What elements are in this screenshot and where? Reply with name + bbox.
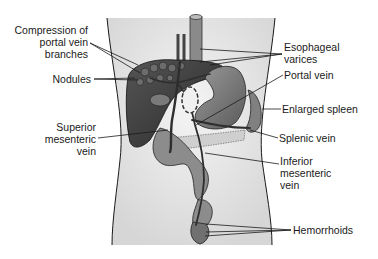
label-text: varices [284, 53, 339, 65]
label-portal-vein: Portal vein [284, 69, 334, 81]
label-inferior-mesenteric-vein: Inferior mesenteric vein [280, 155, 331, 191]
label-compression-portal-vein-branches: Compression of portal vein branches [2, 24, 88, 60]
label-text: mesenteric [2, 133, 96, 145]
label-superior-mesenteric-vein: Superior mesenteric vein [2, 121, 96, 157]
label-text: Compression of [2, 24, 88, 36]
label-esophageal-varices: Esophageal varices [284, 41, 339, 65]
label-text: vein [280, 179, 331, 191]
portal-hypertension-diagram: Compression of portal vein branches Nodu… [0, 0, 378, 259]
varices-ring [182, 87, 198, 113]
label-nodules: Nodules [2, 73, 91, 85]
label-text: Superior [2, 121, 96, 133]
label-text: Esophageal [284, 41, 339, 53]
label-text: branches [2, 48, 88, 60]
label-text: mesenteric [280, 167, 331, 179]
label-text: vein [2, 145, 96, 157]
label-text: portal vein [2, 36, 88, 48]
label-splenic-vein: Splenic vein [279, 132, 336, 144]
label-text: Inferior [280, 155, 331, 167]
label-hemorrhoids: Hemorrhoids [293, 224, 353, 236]
label-enlarged-spleen: Enlarged spleen [282, 103, 358, 115]
